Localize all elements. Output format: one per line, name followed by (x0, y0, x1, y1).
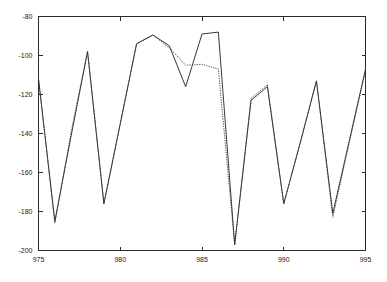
data-series-layer (39, 32, 366, 245)
x-tick-label: 995 (360, 256, 372, 263)
y-tick-label: -100 (18, 52, 32, 59)
y-tick-label: -180 (18, 208, 32, 215)
y-tick-label: -120 (18, 91, 32, 98)
y-tick-label: -80 (22, 13, 32, 20)
x-tick-label: 985 (196, 256, 208, 263)
y-tick-label: -160 (18, 169, 32, 176)
y-tick-label: -200 (18, 247, 32, 254)
x-tick-label: 980 (114, 256, 126, 263)
y-axis-tick-labels: -80-100-120-140-160-180-200 (18, 13, 32, 254)
chart-figure: -80-100-120-140-160-180-200 975980985990… (0, 0, 387, 282)
series-line-dotted (39, 35, 366, 245)
x-tick-label: 990 (278, 256, 290, 263)
x-axis-tick-labels: 975980985990995 (33, 256, 372, 263)
line-chart: -80-100-120-140-160-180-200 975980985990… (0, 0, 387, 282)
y-tick-label: -140 (18, 130, 32, 137)
x-tick-label: 975 (33, 256, 45, 263)
